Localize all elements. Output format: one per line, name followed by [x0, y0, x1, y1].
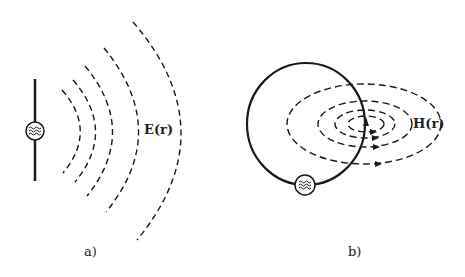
- e-field-label: E(r): [144, 122, 173, 137]
- ac-source-icon: [295, 175, 315, 195]
- loop-antenna: [247, 63, 365, 185]
- wavefront-2: [73, 80, 96, 182]
- wavefront-3: [85, 66, 113, 196]
- arrow-right-icon: [370, 129, 377, 135]
- arrow-right-icon: [372, 135, 379, 141]
- wavefront-4: [104, 48, 139, 212]
- arrow-right-icon: [373, 144, 380, 150]
- caption-b: b): [348, 244, 361, 259]
- h-field-label: H(r): [413, 116, 444, 131]
- caption-a: a): [84, 244, 97, 259]
- diagram-canvas: [0, 0, 465, 277]
- panel-b-loop: [247, 63, 441, 195]
- arrow-right-icon: [375, 161, 382, 167]
- ac-source-icon: [26, 122, 44, 140]
- wavefront-1: [62, 90, 80, 173]
